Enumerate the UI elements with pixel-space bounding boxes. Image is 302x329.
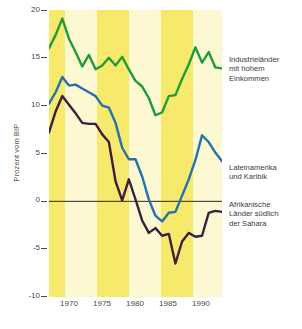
legend-latam-line2: und Karibik (229, 172, 277, 181)
series-line-africa (49, 96, 222, 263)
legend-industrial-line1: Industrieländer (229, 55, 279, 64)
legend-industrial-line2: mit hohem (229, 64, 279, 73)
x-tick-label-1985: 1985 (159, 299, 177, 308)
y-tick-label-5: 5 (14, 149, 40, 157)
x-axis-tick-labels: 1970 1975 1980 1985 1990 (49, 299, 249, 315)
legend-item-industrial: Industrieländer mit hohem Einkommen (229, 55, 279, 83)
legend-item-latam: Lateinamerika und Karibik (229, 163, 277, 182)
x-tick-label-1980: 1980 (126, 299, 144, 308)
x-tick-label-1990: 1990 (192, 299, 210, 308)
series-line-industrial (49, 19, 222, 116)
legend-latam-line1: Lateinamerika (229, 163, 277, 172)
y-tick-mark-10 (41, 105, 47, 106)
y-tick-label-20: 20 (14, 6, 40, 14)
plot-area (49, 10, 222, 297)
x-tick-label-1970: 1970 (60, 299, 78, 308)
y-axis-tick-labels: 20 15 10 5 0 -5 -10 (14, 0, 40, 329)
legend-africa-line1: Afrikanische (229, 200, 278, 209)
y-tick-mark-15 (41, 57, 47, 58)
legend-africa-line2: Länder südlich (229, 209, 278, 218)
y-axis-tick-marks (41, 0, 48, 329)
chart-container: Prozent vom BIP 20 15 10 5 0 -5 -10 (0, 0, 302, 329)
legend-industrial-line3: Einkommen (229, 74, 279, 83)
x-tick-label-1975: 1975 (93, 299, 111, 308)
y-tick-mark-neg10 (41, 296, 47, 297)
y-tick-mark-0 (41, 201, 47, 202)
legend-africa-line3: der Sahara (229, 219, 278, 228)
y-tick-mark-neg5 (41, 248, 47, 249)
y-tick-mark-20 (41, 10, 47, 11)
legend-item-africa: Afrikanische Länder südlich der Sahara (229, 200, 278, 228)
y-tick-mark-5 (41, 153, 47, 154)
y-tick-label-0: 0 (14, 196, 40, 204)
y-tick-label-neg10: -10 (14, 292, 40, 300)
y-tick-label-10: 10 (14, 101, 40, 109)
y-tick-label-15: 15 (14, 53, 40, 61)
series-lines (49, 10, 222, 297)
y-tick-label-neg5: -5 (14, 244, 40, 252)
